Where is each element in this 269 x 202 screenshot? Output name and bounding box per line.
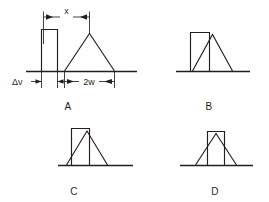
- panel-a-letter: A: [65, 101, 72, 112]
- figure-root: x Δν 2w A B: [0, 0, 269, 202]
- panel-a-x-arrow-right: [80, 14, 87, 20]
- panel-d-rectangle: [208, 132, 225, 166]
- panel-b: B: [176, 33, 250, 113]
- panel-a-2w-arrow-left: [67, 79, 74, 84]
- panel-c-triangle: [67, 131, 108, 165]
- panel-a-x-label: x: [64, 6, 69, 16]
- panel-a-x-arrow-left: [46, 14, 53, 20]
- panel-c: C: [58, 129, 133, 198]
- panel-d: D: [180, 132, 253, 198]
- panel-a-2w-label: 2w: [83, 77, 95, 87]
- panel-b-rectangle: [191, 33, 210, 72]
- panel-d-letter: D: [211, 186, 218, 197]
- panel-c-letter: C: [70, 186, 77, 197]
- panel-b-letter: B: [206, 101, 213, 112]
- panel-b-triangle: [193, 35, 233, 72]
- overlap-series-figure: x Δν 2w A B: [0, 0, 269, 202]
- panel-c-rectangle: [72, 129, 90, 166]
- panel-a: x Δν 2w A: [12, 6, 137, 113]
- panel-a-delta-nu-label: Δν: [12, 77, 23, 87]
- panel-d-triangle: [196, 134, 237, 166]
- panel-a-delta-nu-arrow-left: [36, 79, 42, 84]
- panel-a-2w-arrow-right: [104, 79, 112, 84]
- panel-a-triangle: [65, 34, 115, 72]
